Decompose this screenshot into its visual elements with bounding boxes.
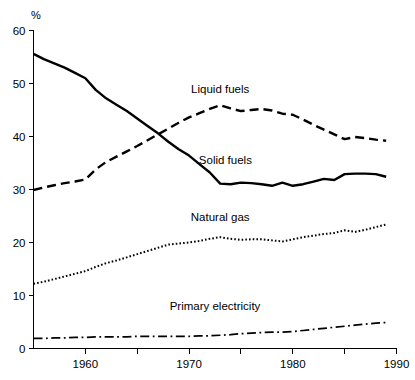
series-label-solid-fuels: Solid fuels (199, 154, 252, 166)
y-axis-unit-label: % (31, 9, 41, 21)
y-tick-label-40: 40 (13, 131, 26, 143)
x-tick-label-1980: 1980 (280, 358, 306, 370)
series-annotations-group: Solid fuelsLiquid fuelsNatural gasPrimar… (170, 83, 261, 312)
y-axis-tick-labels: 0102030405060 (13, 25, 26, 355)
series-label-primary-electricity: Primary electricity (170, 300, 261, 312)
series-label-natural-gas: Natural gas (191, 211, 250, 223)
series-line-natural-gas (34, 224, 387, 283)
data-series-group (34, 54, 387, 339)
line-chart: 0102030405060 1960197019801990 % Solid f… (0, 0, 415, 380)
x-tick-label-1970: 1970 (176, 358, 202, 370)
x-tick-label-1990: 1990 (384, 358, 410, 370)
y-tick-label-50: 50 (13, 78, 26, 90)
y-tick-label-10: 10 (13, 290, 26, 302)
axes-group: 0102030405060 1960197019801990 (13, 25, 410, 370)
series-label-liquid-fuels: Liquid fuels (191, 83, 249, 95)
x-tick-label-1960: 1960 (73, 358, 99, 370)
y-tick-label-60: 60 (13, 25, 26, 37)
x-axis-tick-labels: 1960197019801990 (73, 358, 410, 370)
y-tick-label-30: 30 (13, 184, 26, 196)
x-axis-ticks (85, 349, 396, 354)
chart-container: 0102030405060 1960197019801990 % Solid f… (0, 0, 415, 380)
y-axis-ticks (29, 31, 34, 349)
series-line-liquid-fuels (34, 105, 387, 190)
series-line-primary-electricity (34, 323, 387, 339)
y-tick-label-20: 20 (13, 237, 26, 249)
y-tick-label-0: 0 (19, 343, 25, 355)
